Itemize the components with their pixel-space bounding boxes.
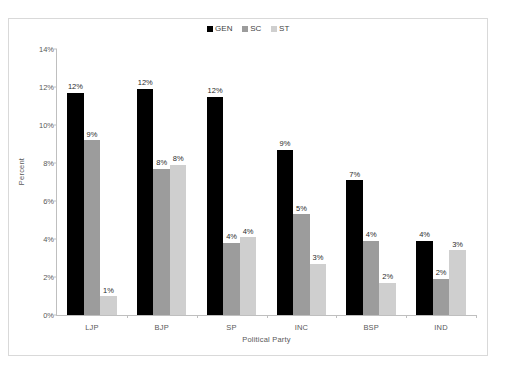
bar-group: 12%9%1% (57, 49, 127, 315)
bar-gen-sp[interactable]: 12% (207, 97, 224, 316)
x-axis-label-ind: IND (406, 323, 476, 332)
bar-value-label: 3% (312, 253, 323, 262)
bar-value-label: 4% (366, 230, 377, 239)
bar-value-label: 12% (138, 78, 153, 87)
bar-sc-ljp[interactable]: 9% (84, 140, 101, 315)
bar-group: 7%4%2% (336, 49, 406, 315)
bar-group: 4%2%3% (406, 49, 476, 315)
bar-gen-bsp[interactable]: 7% (346, 180, 363, 315)
bar-sc-bjp[interactable]: 8% (153, 169, 170, 315)
bar-value-label: 8% (156, 158, 167, 167)
bar-value-label: 4% (419, 230, 430, 239)
bar-st-ind[interactable]: 3% (449, 250, 466, 315)
bar-group: 9%5%3% (266, 49, 336, 315)
bar-value-label: 5% (296, 204, 307, 213)
bar-value-label: 4% (226, 232, 237, 241)
x-axis-tickmark (197, 315, 198, 318)
bars-layer: 12%9%1%12%8%8%12%4%4%9%5%3%7%4%2%4%2%3% (57, 49, 476, 315)
plot-wrapper: Percent 0%2%4%6%8%10%12%14% 12%9%1%12%8%… (9, 19, 487, 355)
bar-value-label: 4% (243, 227, 254, 236)
bar-gen-inc[interactable]: 9% (277, 150, 294, 315)
bar-sc-inc[interactable]: 5% (293, 214, 310, 315)
bar-st-bjp[interactable]: 8% (170, 165, 187, 315)
bar-value-label: 12% (68, 82, 83, 91)
bar-group: 12%8%8% (127, 49, 197, 315)
x-axis-title: Political Party (57, 335, 476, 344)
bar-value-label: 3% (452, 240, 463, 249)
bar-sc-sp[interactable]: 4% (223, 243, 240, 315)
bar-value-label: 2% (436, 268, 447, 277)
chart-frame: GEN SC ST Percent 0%2%4%6%8%10%12%14% 12… (8, 18, 488, 356)
x-axis-tickmark (406, 315, 407, 318)
bar-gen-ljp[interactable]: 12% (67, 93, 84, 315)
bar-st-bsp[interactable]: 2% (379, 283, 396, 315)
plot-area: 0%2%4%6%8%10%12%14% 12%9%1%12%8%8%12%4%4… (56, 49, 476, 316)
bar-st-ljp[interactable]: 1% (100, 296, 117, 315)
y-axis-title: Percent (17, 142, 26, 202)
x-axis-tickmark (267, 315, 268, 318)
bar-value-label: 1% (103, 286, 114, 295)
x-axis-tickmark (336, 315, 337, 318)
bar-value-label: 9% (86, 130, 97, 139)
bar-value-label: 8% (173, 154, 184, 163)
x-axis-label-sp: SP (197, 323, 267, 332)
bar-st-sp[interactable]: 4% (240, 237, 257, 315)
bar-st-inc[interactable]: 3% (310, 264, 327, 315)
bar-value-label: 12% (208, 86, 223, 95)
bar-group: 12%4%4% (197, 49, 267, 315)
x-axis-tickmark (127, 315, 128, 318)
bar-value-label: 9% (279, 139, 290, 148)
x-axis-label-bsp: BSP (336, 323, 406, 332)
bar-value-label: 7% (349, 170, 360, 179)
bar-sc-ind[interactable]: 2% (433, 279, 450, 315)
bar-gen-ind[interactable]: 4% (416, 241, 433, 315)
x-axis-label-inc: INC (266, 323, 336, 332)
bar-gen-bjp[interactable]: 12% (137, 89, 154, 315)
x-axis-label-ljp: LJP (57, 323, 127, 332)
x-axis-label-bjp: BJP (127, 323, 197, 332)
bar-value-label: 2% (382, 272, 393, 281)
bar-sc-bsp[interactable]: 4% (363, 241, 380, 315)
x-axis-tickmark (476, 315, 477, 318)
x-axis-labels: LJPBJPSPINCBSPIND (57, 323, 476, 332)
